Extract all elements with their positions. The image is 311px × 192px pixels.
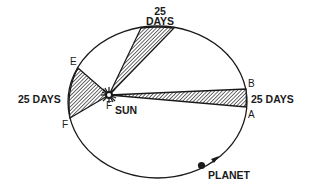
point-f-label: F	[62, 119, 68, 130]
point-b-label: B	[248, 78, 255, 89]
planet-icon	[198, 156, 219, 169]
top-wedge-label-unit: DAYS	[146, 15, 174, 27]
sun-label: SUN	[115, 104, 137, 116]
point-a-label: A	[248, 109, 255, 120]
wedge-top	[109, 27, 174, 95]
focus-label: F	[106, 100, 112, 111]
right-wedge-label: 25 DAYS	[251, 93, 294, 105]
left-wedge-label: 25 DAYS	[18, 93, 61, 105]
planet-label: PLANET	[208, 169, 251, 181]
point-e-label: E	[70, 56, 77, 67]
kepler-orbit-diagram: 25 DAYS 25 DAYS 25 DAYS SUN PLANET B A E…	[0, 0, 311, 192]
